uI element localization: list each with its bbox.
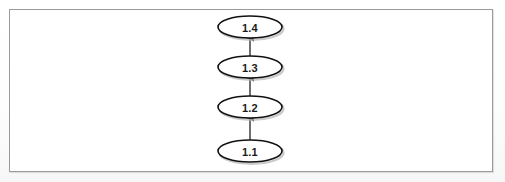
node-label-1.4: 1.4 bbox=[242, 22, 258, 33]
edge-n3-to-n4[interactable] bbox=[243, 38, 257, 56]
scanned-page: 1.41.31.21.1 bbox=[0, 0, 505, 182]
edge-n2-to-n3[interactable] bbox=[243, 78, 257, 96]
node-label-1.2: 1.2 bbox=[242, 102, 258, 113]
node-label-1.3: 1.3 bbox=[242, 62, 258, 73]
node-label-1.1: 1.1 bbox=[242, 146, 258, 157]
edge-n1-to-n2[interactable] bbox=[243, 118, 257, 140]
